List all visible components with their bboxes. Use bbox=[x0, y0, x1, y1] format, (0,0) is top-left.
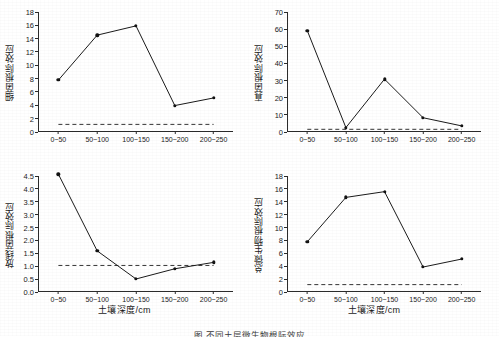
chart-panel-actinomycetes: 放线菌根际效应 0.00.51.01.52.02.53.03.54.04.5 0… bbox=[0, 168, 249, 336]
x-axis-tick-label: 100~150 bbox=[122, 131, 149, 143]
x-axis-tick-label: 50~100 bbox=[334, 291, 358, 303]
x-axis-tick-mark bbox=[135, 291, 136, 294]
x-axis-tick-label: 0~50 bbox=[51, 291, 67, 303]
plot-frame: 0~5050~100100~150150~200200~250 bbox=[38, 176, 233, 292]
x-axis-tick-mark bbox=[461, 291, 462, 294]
x-axis-tick-mark bbox=[213, 131, 214, 134]
y-axis-tick-label: 16 bbox=[26, 21, 34, 30]
series-canvas bbox=[288, 12, 481, 131]
y-axis-tick-label: 4.5 bbox=[24, 172, 34, 181]
y-axis-tick-label: 18 bbox=[26, 8, 34, 17]
x-axis-tick-mark bbox=[174, 131, 175, 134]
x-axis-tick-mark bbox=[461, 131, 462, 134]
y-tick-column: 010203040506070 bbox=[265, 12, 287, 132]
plot-area-fungi: 010203040506070 0~5050~100100~150150~200… bbox=[265, 12, 481, 132]
y-axis-tick-label: 12 bbox=[26, 47, 34, 56]
y-axis-label: 放线菌根际效应 bbox=[2, 172, 16, 298]
x-axis-tick-mark bbox=[174, 291, 175, 294]
y-axis-tick-label: 2 bbox=[30, 114, 34, 123]
series-line bbox=[307, 192, 461, 267]
y-axis-tick-label: 8 bbox=[279, 236, 283, 245]
x-axis-tick-mark bbox=[384, 291, 385, 294]
x-axis-tick-label: 200~250 bbox=[200, 131, 227, 143]
x-axis-tick-label: 200~250 bbox=[200, 291, 227, 303]
x-axis-tick-mark bbox=[97, 291, 98, 294]
plot-frame: 0~5050~100100~150150~200200~250 bbox=[287, 12, 481, 132]
plot-area-total-microbes: 024681012141618 0~5050~100100~150150~200… bbox=[265, 176, 481, 292]
series-line bbox=[58, 26, 213, 106]
x-axis-tick-label: 200~250 bbox=[448, 131, 475, 143]
series-canvas bbox=[288, 176, 481, 291]
y-axis-label: 真菌根际效应 bbox=[251, 8, 265, 138]
chart-panel-bacteria: 细菌根际效应 024681012141618 0~5050~100100~150… bbox=[0, 0, 249, 168]
x-axis-tick-label: 100~150 bbox=[371, 131, 398, 143]
x-axis-tick-mark bbox=[345, 131, 346, 134]
y-axis-tick-label: 8 bbox=[30, 74, 34, 83]
x-axis-tick-label: 0~50 bbox=[299, 291, 315, 303]
y-axis-tick-label: 0 bbox=[279, 128, 283, 137]
y-axis-tick-label: 2.5 bbox=[24, 223, 34, 232]
x-axis-tick-label: 50~100 bbox=[334, 131, 358, 143]
y-axis-tick-label: 70 bbox=[275, 8, 283, 17]
y-axis-tick-label: 0 bbox=[30, 128, 34, 137]
y-axis-tick-label: 16 bbox=[275, 184, 283, 193]
y-axis-tick-label: 40 bbox=[275, 59, 283, 68]
y-axis-label: 细菌根际效应 bbox=[2, 8, 16, 138]
x-axis-tick-mark bbox=[213, 291, 214, 294]
plot-frame: 0~5050~100100~150150~200200~250 bbox=[287, 176, 481, 292]
x-axis-tick-mark bbox=[423, 291, 424, 294]
x-axis-tick-mark bbox=[345, 291, 346, 294]
x-axis-tick-label: 50~100 bbox=[85, 291, 109, 303]
x-axis-tick-label: 150~200 bbox=[409, 131, 436, 143]
y-axis-tick-label: 4 bbox=[279, 262, 283, 271]
y-axis-tick-label: 20 bbox=[275, 93, 283, 102]
series-canvas bbox=[39, 12, 233, 131]
x-axis-tick-mark bbox=[58, 131, 59, 134]
y-axis-tick-label: 1.5 bbox=[24, 249, 34, 258]
x-axis-tick-label: 50~100 bbox=[85, 131, 109, 143]
y-axis-tick-label: 2 bbox=[279, 275, 283, 284]
y-axis-tick-label: 10 bbox=[26, 61, 34, 70]
x-axis-tick-label: 100~150 bbox=[371, 291, 398, 303]
y-axis-tick-label: 6 bbox=[279, 249, 283, 258]
plot-area-actinomycetes: 0.00.51.01.52.02.53.03.54.04.5 0~5050~10… bbox=[16, 176, 233, 292]
x-axis-tick-mark bbox=[307, 131, 308, 134]
x-axis-tick-mark bbox=[423, 131, 424, 134]
y-axis-tick-label: 30 bbox=[275, 76, 283, 85]
x-axis-tick-label: 150~200 bbox=[161, 291, 188, 303]
series-line bbox=[58, 176, 213, 279]
y-axis-tick-label: 0 bbox=[279, 288, 283, 297]
y-axis-tick-label: 0.5 bbox=[24, 275, 34, 284]
y-axis-tick-label: 0.0 bbox=[24, 288, 34, 297]
x-axis-tick-label: 200~250 bbox=[448, 291, 475, 303]
y-axis-tick-label: 60 bbox=[275, 25, 283, 34]
x-axis-tick-mark bbox=[58, 291, 59, 294]
y-axis-tick-label: 2.0 bbox=[24, 236, 34, 245]
x-axis-tick-label: 0~50 bbox=[299, 131, 315, 143]
plot-frame: 0~5050~100100~150150~200200~250 bbox=[38, 12, 233, 132]
y-axis-tick-label: 4 bbox=[30, 101, 34, 110]
y-axis-tick-label: 3.5 bbox=[24, 197, 34, 206]
y-tick-column: 0.00.51.01.52.02.53.03.54.04.5 bbox=[16, 176, 38, 292]
series-canvas bbox=[39, 176, 233, 291]
y-axis-tick-label: 1.0 bbox=[24, 262, 34, 271]
x-axis-tick-mark bbox=[384, 131, 385, 134]
y-axis-tick-label: 18 bbox=[275, 172, 283, 181]
x-axis-tick-label: 100~150 bbox=[122, 291, 149, 303]
x-axis-tick-label: 150~200 bbox=[161, 131, 188, 143]
y-axis-label: 总微生物根际效应 bbox=[251, 172, 265, 298]
x-axis-title: 土壤深度/cm bbox=[249, 303, 499, 316]
y-axis-tick-label: 10 bbox=[275, 110, 283, 119]
y-axis-tick-label: 14 bbox=[26, 34, 34, 43]
y-axis-tick-label: 14 bbox=[275, 197, 283, 206]
x-axis-tick-label: 150~200 bbox=[409, 291, 436, 303]
x-axis-tick-mark bbox=[135, 131, 136, 134]
y-axis-tick-label: 12 bbox=[275, 210, 283, 219]
x-axis-tick-mark bbox=[97, 131, 98, 134]
x-axis-title: 土壤深度/cm bbox=[0, 303, 249, 316]
y-axis-tick-label: 50 bbox=[275, 42, 283, 51]
y-tick-column: 024681012141618 bbox=[16, 12, 38, 132]
chart-panel-fungi: 真菌根际效应 010203040506070 0~5050~100100~150… bbox=[249, 0, 499, 168]
y-tick-column: 024681012141618 bbox=[265, 176, 287, 292]
